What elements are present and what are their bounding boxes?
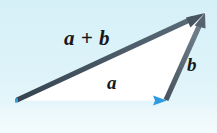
label-vector-a-plus-b: a + b	[64, 28, 110, 49]
vector-addition-figure: a + b a b	[0, 0, 217, 133]
label-vector-a: a	[107, 73, 117, 92]
vector-diagram-canvas	[0, 0, 217, 133]
vector-a-tail-nub	[15, 98, 18, 102]
label-vector-b: b	[187, 55, 197, 74]
paper-texture-band	[0, 108, 217, 133]
